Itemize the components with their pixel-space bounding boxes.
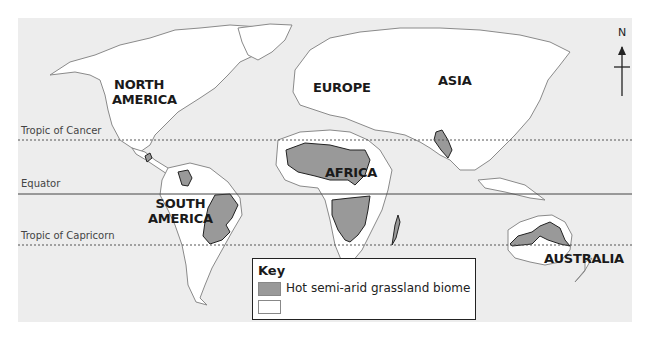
- key-swatch-biome: [258, 282, 281, 296]
- label-europe: EUROPE: [313, 80, 371, 95]
- label-africa: AFRICA: [325, 165, 377, 180]
- label-tropic-of-cancer: Tropic of Cancer: [21, 125, 101, 136]
- key-label-biome: Hot semi-arid grassland biome: [286, 281, 470, 295]
- landmass-madagascar: [392, 215, 400, 245]
- key-swatch-other: [258, 300, 281, 314]
- label-australia: AUSTRALIA: [544, 251, 624, 266]
- label-south-america: SOUTH AMERICA: [148, 196, 213, 226]
- label-tropic-of-capricorn: Tropic of Capricorn: [21, 230, 115, 241]
- landmass-indonesia: [478, 178, 545, 200]
- label-equator: Equator: [21, 178, 60, 189]
- north-label: N: [618, 26, 626, 39]
- key-title: Key: [258, 263, 285, 278]
- label-north-america: NORTH AMERICA: [112, 77, 177, 107]
- world-map: N NORTH AMERICA EUROPE ASIA AFRICA SOUTH…: [0, 0, 654, 339]
- north-arrow-icon: [614, 46, 630, 96]
- map-key: Key Hot semi-arid grassland biome: [252, 258, 476, 320]
- label-asia: ASIA: [438, 73, 472, 88]
- landmass-south-america: [160, 163, 242, 305]
